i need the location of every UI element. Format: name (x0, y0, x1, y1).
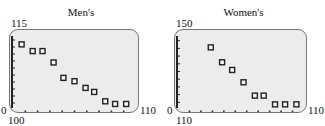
data-point-marker (283, 102, 288, 107)
x-tick (269, 111, 271, 113)
mens-x-max-label: 110 (140, 104, 156, 116)
data-point-marker (30, 49, 35, 54)
x-tick (98, 111, 100, 113)
data-point-marker (40, 49, 45, 54)
x-tick (25, 111, 27, 113)
data-point-marker (72, 79, 77, 84)
data-point-marker (124, 101, 129, 106)
data-point-marker (230, 67, 235, 72)
data-point-marker (241, 80, 246, 85)
x-tick (212, 111, 214, 113)
mens-y-min-label: 0 (1, 104, 7, 116)
x-tick (37, 111, 39, 113)
womens-x-min-label: 110 (176, 114, 192, 126)
x-tick (123, 111, 125, 113)
data-point-marker (273, 102, 278, 107)
data-point-marker (51, 60, 56, 65)
data-point-marker (61, 75, 66, 80)
data-point-marker (294, 102, 299, 107)
x-tick (280, 111, 282, 113)
x-tick (234, 111, 236, 113)
x-tick (200, 111, 202, 113)
x-tick (61, 111, 63, 113)
mens-chart: Men's 115 0 100 110 (0, 0, 162, 126)
mens-y-max-label: 115 (11, 17, 27, 29)
womens-plot-area (174, 29, 307, 113)
data-point-marker (113, 101, 118, 106)
data-point-marker (103, 99, 108, 104)
data-point-marker (19, 42, 24, 47)
x-tick (49, 111, 51, 113)
womens-x-max-label: 110 (308, 104, 324, 116)
womens-y-min-label: 0 (167, 104, 173, 116)
data-point-marker (261, 93, 266, 98)
mens-x-min-label: 100 (8, 114, 25, 126)
x-tick (292, 111, 294, 113)
x-tick (86, 111, 88, 113)
mens-plot-area (9, 29, 139, 113)
data-point-marker (83, 85, 88, 90)
womens-scatter-points (175, 30, 308, 114)
mens-scatter-points (10, 30, 140, 114)
data-point-marker (252, 93, 257, 98)
x-tick (257, 111, 259, 113)
womens-chart: Women's 150 0 110 110 (162, 0, 325, 126)
data-point-marker (92, 89, 97, 94)
x-tick (74, 111, 76, 113)
data-point-marker (220, 60, 225, 65)
x-tick (111, 111, 113, 113)
x-tick (246, 111, 248, 113)
womens-y-max-label: 150 (176, 17, 193, 29)
x-tick (189, 111, 191, 113)
data-point-marker (208, 45, 213, 50)
x-tick (223, 111, 225, 113)
